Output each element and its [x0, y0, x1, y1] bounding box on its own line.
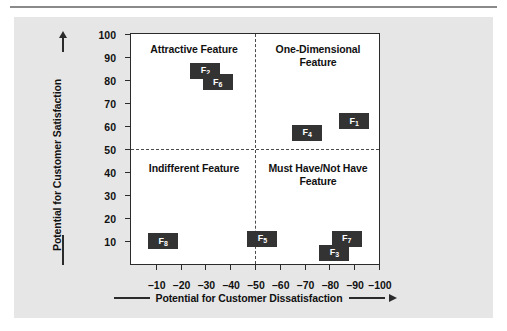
- quadrant-label-must-have: Must Have/Not Have Feature: [259, 162, 377, 188]
- y-tick-label: 40: [104, 167, 116, 179]
- x-tick-label: –90: [346, 279, 364, 291]
- marker-index: 4: [308, 131, 312, 138]
- data-point-marker: F1: [339, 113, 369, 129]
- y-tick-label: 60: [104, 121, 116, 133]
- y-tick-mark: 20: [125, 218, 131, 219]
- x-tick-label: –10: [148, 279, 166, 291]
- y-axis-arrow-icon: [59, 31, 67, 38]
- x-tick-mark: –80: [329, 264, 330, 270]
- marker-index: 7: [348, 237, 352, 244]
- x-tick-label: –50: [247, 279, 265, 291]
- y-tick-mark: 40: [125, 172, 131, 173]
- x-tick-label: –60: [272, 279, 290, 291]
- x-axis-title: Potential for Customer Dissatisfaction: [156, 292, 343, 304]
- x-tick-label: –100: [368, 279, 391, 291]
- quadrant-label-indifferent: Indifferent Feature: [135, 162, 253, 175]
- y-tick-mark: 100: [125, 34, 131, 35]
- quadrant-label-attractive: Attractive Feature: [135, 43, 253, 56]
- y-tick-label: 70: [104, 98, 116, 110]
- x-tick-mark: –10: [156, 264, 157, 270]
- y-tick-mark: 80: [125, 80, 131, 81]
- data-point-marker: F5: [247, 231, 277, 247]
- x-axis-title-group: Potential for Customer Dissatisfaction: [130, 292, 380, 304]
- y-tick-mark: 30: [125, 195, 131, 196]
- x-tick-label: –20: [173, 279, 191, 291]
- data-point-marker: F8: [148, 233, 178, 249]
- x-tick-mark: –60: [280, 264, 281, 270]
- x-tick-label: –40: [222, 279, 240, 291]
- kano-model-figure: Potential for Customer Satisfaction Attr…: [0, 0, 507, 331]
- x-tick-label: –80: [322, 279, 340, 291]
- marker-index: 8: [164, 240, 168, 247]
- plot-area: Attractive Feature One-Dimensional Featu…: [130, 33, 380, 265]
- x-tick-label: –30: [198, 279, 216, 291]
- x-tick-mark: –20: [181, 264, 182, 270]
- marker-index: 3: [335, 251, 339, 258]
- y-tick-label: 80: [104, 75, 116, 87]
- y-tick-label: 30: [104, 190, 116, 202]
- y-tick-mark: 10: [125, 241, 131, 242]
- x-tick-mark: –100: [379, 264, 380, 270]
- vertical-divider: [255, 34, 256, 264]
- x-axis-arrow-icon: [389, 294, 397, 302]
- marker-index: 5: [263, 237, 267, 244]
- data-point-marker: F4: [292, 125, 322, 141]
- marker-index: 1: [355, 120, 359, 127]
- x-tick-mark: –50: [255, 264, 256, 270]
- x-tick-mark: –40: [230, 264, 231, 270]
- data-point-marker: F6: [203, 74, 233, 90]
- y-tick-mark: 50: [125, 149, 131, 150]
- marker-index: 6: [219, 81, 223, 88]
- y-tick-label: 20: [104, 213, 116, 225]
- x-tick-mark: –30: [205, 264, 206, 270]
- y-tick-label: 100: [98, 29, 116, 41]
- x-tick-mark: –70: [305, 264, 306, 270]
- y-axis-title: Potential for Customer Satisfaction: [51, 79, 63, 251]
- x-tick-mark: –90: [354, 264, 355, 270]
- x-tick-label: –70: [297, 279, 315, 291]
- y-tick-mark: 70: [125, 103, 131, 104]
- y-tick-mark: 90: [125, 57, 131, 58]
- quadrant-label-one-dimensional: One-Dimensional Feature: [259, 43, 377, 69]
- y-tick-label: 10: [104, 236, 116, 248]
- x-axis-left-rule: [114, 297, 150, 299]
- y-axis-title-group: Potential for Customer Satisfaction: [52, 33, 74, 265]
- y-tick-label: 90: [104, 52, 116, 64]
- top-divider-rule: [10, 6, 497, 8]
- y-tick-mark: 60: [125, 126, 131, 127]
- y-axis-arrow-stem: [62, 38, 63, 52]
- y-tick-label: 50: [104, 144, 116, 156]
- horizontal-divider: [131, 149, 379, 150]
- x-axis-right-rule: [349, 297, 385, 299]
- data-point-marker: F3: [319, 245, 349, 261]
